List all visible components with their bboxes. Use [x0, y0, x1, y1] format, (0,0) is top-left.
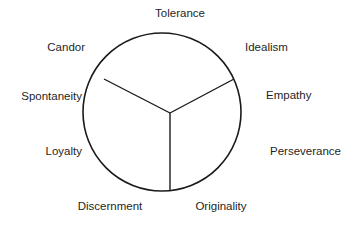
spoke-upper-right: [170, 79, 234, 113]
segmented-circle-graphic: [0, 0, 357, 225]
spoke-upper-left: [104, 79, 170, 113]
outer-circle: [83, 33, 241, 191]
label-discernment: Discernment: [78, 201, 143, 213]
label-empathy: Empathy: [266, 90, 311, 102]
label-candor: Candor: [47, 42, 85, 54]
diagram-canvas: Tolerance Candor Idealism Spontaneity Em…: [0, 0, 357, 225]
label-perseverance: Perseverance: [270, 146, 341, 158]
label-originality: Originality: [195, 201, 246, 213]
label-loyalty: Loyalty: [46, 146, 82, 158]
label-spontaneity: Spontaneity: [21, 91, 82, 103]
label-idealism: Idealism: [245, 42, 288, 54]
label-tolerance: Tolerance: [155, 8, 205, 20]
